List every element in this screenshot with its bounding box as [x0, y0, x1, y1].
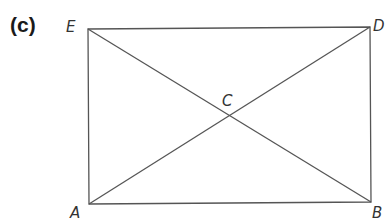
diagonal-ad — [89, 27, 370, 204]
point-label-d: D — [373, 17, 385, 35]
point-label-c: C — [222, 92, 232, 110]
point-label-a: A — [70, 204, 80, 222]
point-label-e: E — [66, 18, 75, 36]
rectangle-diagram — [0, 0, 390, 223]
point-label-b: B — [372, 204, 382, 222]
